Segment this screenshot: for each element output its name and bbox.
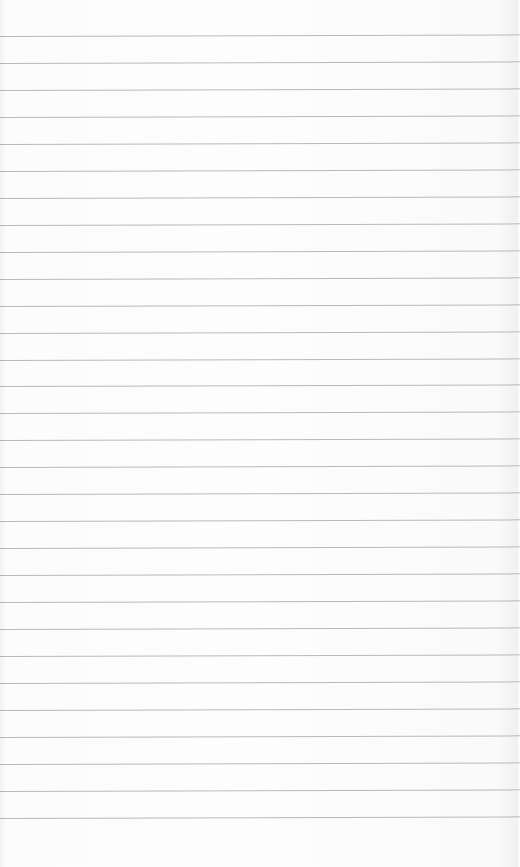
ruled-line [0, 196, 520, 199]
ruled-line [0, 574, 520, 577]
ruled-line [0, 816, 520, 819]
ruled-line [0, 331, 520, 334]
ruled-line [0, 708, 520, 711]
ruled-line [0, 439, 520, 442]
ruled-line [0, 358, 520, 361]
ruled-line [0, 466, 520, 469]
ruled-line [0, 654, 520, 657]
ruled-line [0, 250, 520, 253]
ruled-line [0, 547, 520, 550]
ruled-line [0, 762, 520, 765]
ruled-line [0, 735, 520, 738]
ruled-line [0, 115, 520, 118]
ruled-line [0, 385, 520, 388]
ruled-line [0, 627, 520, 630]
ruled-line [0, 61, 520, 64]
ruled-line [0, 169, 520, 172]
ruled-line [0, 142, 520, 145]
ruled-line [0, 789, 520, 792]
ruled-line [0, 412, 520, 415]
ruled-line [0, 520, 520, 523]
ruled-line [0, 223, 520, 226]
ruled-line [0, 681, 520, 684]
ruled-line [0, 277, 520, 280]
ruled-line [0, 34, 520, 37]
ruled-line [0, 601, 520, 604]
ruled-line [0, 88, 520, 91]
ruled-line [0, 304, 520, 307]
ruled-line [0, 493, 520, 496]
